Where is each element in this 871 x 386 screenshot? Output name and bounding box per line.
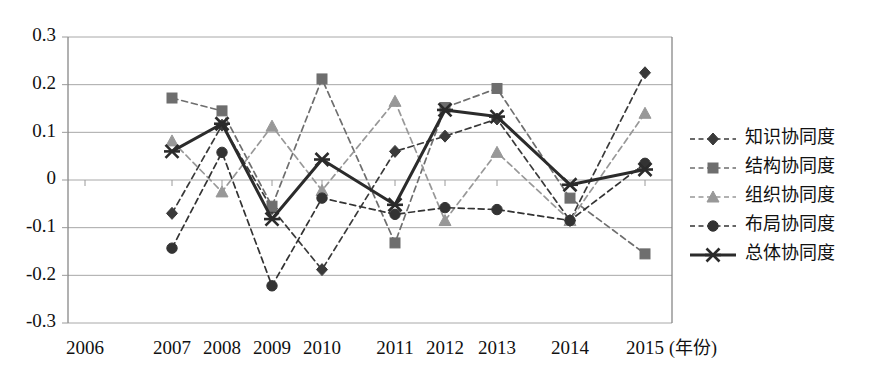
x-axis-unit-label: (年份)	[669, 338, 717, 359]
datapoint-结构协同度-2013	[492, 83, 502, 93]
datapoint-布局协同度-2009	[267, 281, 277, 291]
legend-label-结构协同度: 结构协同度	[745, 156, 835, 176]
x-axis-label-2009: 2009	[253, 337, 291, 358]
y-axis-label-0.3: 0.3	[32, 24, 56, 45]
y-axis-label--0.2: -0.2	[26, 263, 56, 284]
synergy-degree-line-chart: 0.30.20.10-0.1-0.2-0.3 20062007200820092…	[0, 0, 871, 386]
x-axis-label-2006: 2006	[66, 337, 104, 358]
y-axis-label-0.1: 0.1	[32, 120, 56, 141]
x-axis-label-2014: 2014	[551, 337, 590, 358]
datapoint-组织协同度-2011	[389, 95, 401, 106]
x-axis-label-2010: 2010	[303, 337, 341, 358]
datapoint-结构协同度-2008	[217, 106, 227, 116]
datapoint-布局协同度-2013	[492, 204, 502, 214]
y-axis-tick-labels: 0.30.20.10-0.1-0.2-0.3	[26, 24, 56, 331]
datapoint-总体协同度-2007	[164, 145, 180, 158]
legend-label-知识协同度: 知识协同度	[745, 127, 835, 147]
data-series-group	[164, 67, 653, 291]
y-axis-label-0: 0	[47, 167, 57, 188]
legend-item-组织协同度[interactable]: 组织协同度	[690, 185, 835, 205]
datapoint-知识协同度-2011	[390, 145, 401, 157]
datapoint-组织协同度-2007	[166, 135, 178, 146]
datapoint-知识协同度-2015	[640, 67, 651, 79]
datapoint-知识协同度-2007	[167, 207, 178, 219]
datapoint-组织协同度-2009	[266, 120, 278, 131]
legend-label-组织协同度: 组织协同度	[745, 185, 835, 205]
series-结构协同度	[167, 74, 650, 259]
datapoint-结构协同度-2010	[317, 74, 327, 84]
legend-marker-diamond-icon	[708, 133, 719, 145]
gridlines-group	[68, 37, 672, 323]
legend-item-总体协同度[interactable]: 总体协同度	[690, 243, 835, 263]
datapoint-布局协同度-2007	[167, 243, 177, 253]
x-axis-label-2007: 2007	[153, 337, 191, 358]
x-axis-unit-text: (年份)	[669, 338, 717, 359]
x-axis-label-2011: 2011	[376, 337, 413, 358]
x-axis-label-2013: 2013	[478, 337, 516, 358]
series-知识协同度	[167, 67, 651, 276]
legend-label-布局协同度: 布局协同度	[745, 214, 835, 234]
legend: 知识协同度结构协同度组织协同度布局协同度总体协同度	[690, 127, 835, 263]
datapoint-布局协同度-2010	[317, 193, 327, 203]
datapoint-结构协同度-2015	[640, 249, 650, 259]
datapoint-结构协同度-2014	[565, 193, 575, 203]
y-axis-label--0.1: -0.1	[26, 215, 56, 236]
legend-marker-cross-icon	[705, 249, 721, 262]
x-axis-label-2012: 2012	[426, 337, 464, 358]
legend-item-结构协同度[interactable]: 结构协同度	[690, 156, 835, 176]
datapoint-布局协同度-2014	[565, 215, 575, 225]
legend-label-总体协同度: 总体协同度	[745, 243, 835, 263]
series-line-知识协同度	[172, 73, 645, 270]
datapoint-布局协同度-2012	[440, 202, 450, 212]
x-axis-label-2008: 2008	[203, 337, 241, 358]
legend-item-布局协同度[interactable]: 布局协同度	[690, 214, 835, 234]
x-axis-label-2015: 2015	[626, 337, 664, 358]
y-axis-label--0.3: -0.3	[26, 310, 56, 331]
datapoint-结构协同度-2007	[167, 93, 177, 103]
y-axis-label-0.2: 0.2	[32, 72, 56, 93]
datapoint-组织协同度-2015	[639, 107, 651, 118]
legend-marker-square-icon	[708, 163, 718, 173]
datapoint-布局协同度-2008	[217, 147, 227, 157]
datapoint-结构协同度-2011	[390, 238, 400, 248]
legend-item-知识协同度[interactable]: 知识协同度	[690, 127, 835, 147]
datapoint-组织协同度-2013	[491, 146, 503, 157]
x-axis-tick-labels: 2006200720082009201020112012201320142015	[66, 337, 664, 358]
datapoint-布局协同度-2011	[390, 209, 400, 219]
chart-canvas: 0.30.20.10-0.1-0.2-0.3 20062007200820092…	[0, 0, 871, 386]
legend-marker-circle-icon	[708, 221, 718, 231]
datapoint-总体协同度-2010	[314, 153, 330, 166]
